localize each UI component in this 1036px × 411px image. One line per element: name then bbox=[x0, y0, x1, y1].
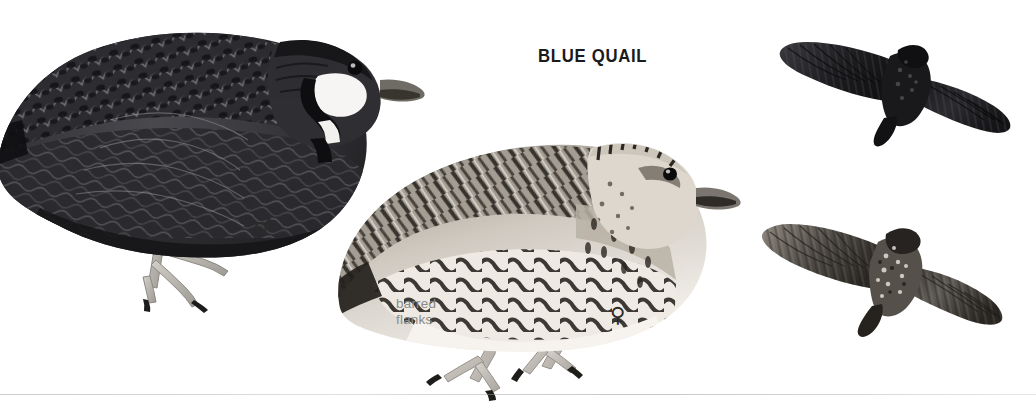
male-quail-in-flight bbox=[772, 26, 1022, 161]
male-symbol: ♂ bbox=[253, 216, 272, 237]
annotation-barred-flanks: barred flanks bbox=[396, 296, 436, 327]
female-quail-standing bbox=[326, 112, 796, 382]
flight-wing-left bbox=[780, 42, 896, 102]
flight-head bbox=[886, 228, 921, 254]
flight-tail bbox=[874, 116, 897, 146]
page-divider bbox=[0, 394, 1036, 395]
female-symbol: ♀ bbox=[610, 305, 625, 326]
illustration-plate: BLUE QUAIL bbox=[0, 0, 1036, 411]
female-quail-in-flight bbox=[752, 206, 1017, 351]
flight-wing-left bbox=[762, 224, 886, 290]
male-eye bbox=[348, 61, 363, 75]
page-title: BLUE QUAIL bbox=[538, 45, 647, 67]
female-eye bbox=[663, 167, 677, 180]
flight-tail bbox=[858, 304, 883, 337]
female-claws bbox=[426, 366, 583, 401]
